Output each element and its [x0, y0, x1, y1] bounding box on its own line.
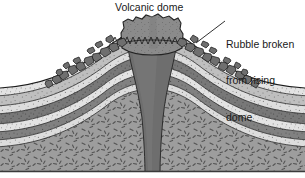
volcanic-dome-title-label: Volcanic dome: [115, 1, 183, 13]
figure-canvas: Volcanic dome Rubble broken from rising …: [0, 0, 305, 178]
volcanic-dome-body: [121, 14, 183, 55]
rubble-label-line-3: dome: [226, 111, 294, 123]
rubble-leader-line: [196, 21, 225, 43]
rubble-annotation-label: Rubble broken from rising dome: [226, 14, 294, 147]
rubble-label-line-2: from rising: [226, 74, 294, 86]
rubble-label-line-1: Rubble broken: [226, 38, 294, 50]
